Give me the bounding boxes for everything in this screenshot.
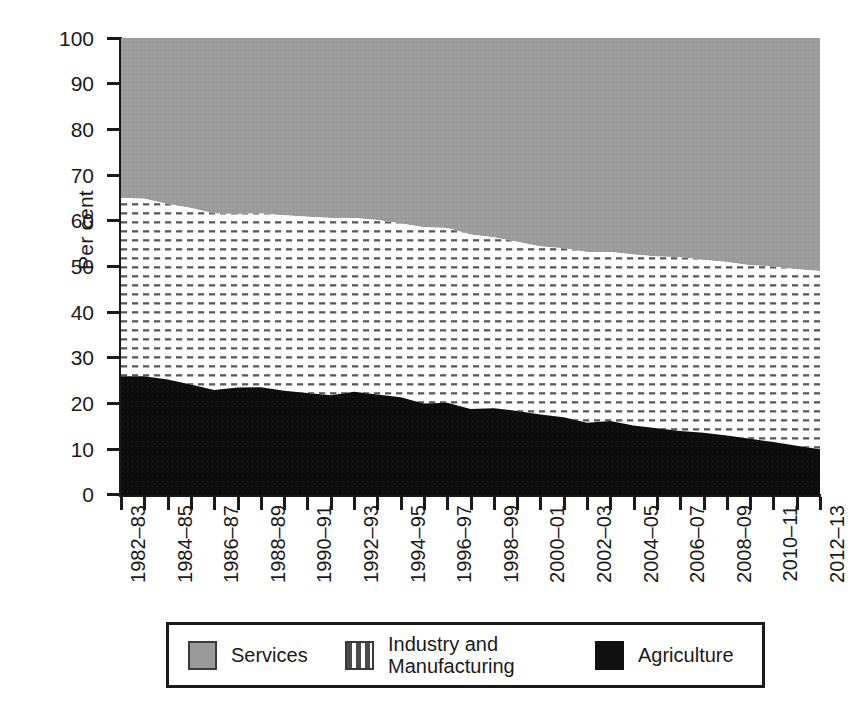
x-tick-mark-2012-13 [819, 497, 822, 510]
legend-label-industry-line2: Manufacturing [388, 655, 515, 677]
legend-swatch-industry-icon [345, 641, 374, 670]
legend-label-industry-line1: Industry and [388, 633, 498, 655]
x-tick-mark-1996-97 [446, 497, 449, 510]
x-tick-label-2000-01: 2000–01 [547, 505, 567, 615]
figure-container: Per cent 100 90 80 70 60 50 40 30 20 10 … [0, 0, 853, 725]
x-tick-label-1986-87: 1986–87 [221, 505, 241, 615]
y-axis-tick-labels: 100 90 80 70 60 50 40 30 20 10 0 [38, 0, 94, 725]
y-tick-label-60: 60 [38, 210, 94, 231]
y-tick-label-70: 70 [38, 165, 94, 186]
y-tick-label-30: 30 [38, 347, 94, 368]
x-tick-mark-1984-85 [167, 497, 170, 510]
x-axis-tick-labels: 1982–831984–851986–871988–891990–911992–… [0, 511, 853, 611]
y-tick-label-40: 40 [38, 302, 94, 323]
legend-swatch-services-icon [188, 641, 217, 670]
stacked-area-svg [121, 38, 820, 495]
x-tick-mark-2002-03 [586, 497, 589, 510]
plot-area [121, 38, 820, 495]
x-tick-label-2004-05: 2004–05 [641, 505, 661, 615]
x-tick-label-1998-99: 1998–99 [501, 505, 521, 615]
x-tick-mark-2000-01 [539, 497, 542, 510]
legend-label-services: Services [231, 644, 308, 666]
x-tick-label-1992-93: 1992–93 [361, 505, 381, 615]
legend-item-agriculture[interactable]: Agriculture [595, 625, 734, 685]
legend-box: Services Industry and Manufacturing Agri… [166, 622, 765, 688]
x-tick-mark-1988-89 [260, 497, 263, 510]
x-tick-mark-2010-11 [772, 497, 775, 510]
y-tick-label-100: 100 [38, 28, 94, 49]
x-tick-label-1984-85: 1984–85 [175, 505, 195, 615]
x-tick-mark-1986-87 [213, 497, 216, 510]
x-tick-label-1982-83: 1982–83 [128, 505, 148, 615]
x-tick-label-1990-91: 1990–91 [314, 505, 334, 615]
y-tick-label-20: 20 [38, 393, 94, 414]
legend-label-industry: Industry and Manufacturing [388, 633, 515, 678]
x-tick-mark-2006-07 [679, 497, 682, 510]
x-tick-label-1994-95: 1994–95 [408, 505, 428, 615]
y-tick-label-50: 50 [38, 256, 94, 277]
legend-item-industry[interactable]: Industry and Manufacturing [345, 625, 515, 685]
series-layers [121, 38, 820, 495]
x-tick-label-2008-09: 2008–09 [734, 505, 754, 615]
x-tick-mark-1992-93 [353, 497, 356, 510]
y-tick-label-10: 10 [38, 439, 94, 460]
x-tick-label-2012-13: 2012–13 [827, 505, 847, 615]
x-tick-mark-1994-95 [400, 497, 403, 510]
x-tick-mark-2004-05 [633, 497, 636, 510]
y-tick-label-90: 90 [38, 73, 94, 94]
y-tick-label-80: 80 [38, 119, 94, 140]
x-tick-label-1988-89: 1988–89 [268, 505, 288, 615]
x-tick-mark-2008-09 [726, 497, 729, 510]
x-tick-mark-1982-83 [120, 497, 123, 510]
legend-label-agriculture: Agriculture [638, 644, 734, 666]
x-tick-label-1996-97: 1996–97 [454, 505, 474, 615]
x-tick-mark-1990-91 [306, 497, 309, 510]
x-tick-label-2010-11: 2010–11 [780, 505, 800, 615]
x-tick-label-2002-03: 2002–03 [594, 505, 614, 615]
x-tick-mark-1998-99 [493, 497, 496, 510]
x-tick-label-2006-07: 2006–07 [687, 505, 707, 615]
legend-item-services[interactable]: Services [188, 625, 308, 685]
legend-swatch-agriculture-icon [595, 641, 624, 670]
